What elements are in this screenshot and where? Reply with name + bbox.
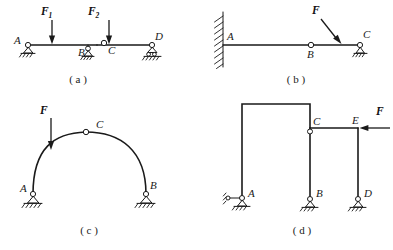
hinge-b-b bbox=[308, 42, 313, 47]
joint-label-a-C: C bbox=[108, 44, 116, 56]
support-pin-c-b bbox=[135, 191, 155, 207]
joint-label-d-E: E bbox=[351, 114, 359, 126]
joint-label-d-C: C bbox=[313, 115, 321, 127]
arch-c-left bbox=[33, 132, 86, 194]
joint-label-a-B: B bbox=[78, 46, 85, 58]
figure-sheet: A B C bbox=[0, 0, 393, 250]
joint-label-b-B: B bbox=[307, 48, 314, 60]
force-label-d-f: F bbox=[375, 105, 384, 117]
support-link-pin-d-a bbox=[223, 193, 250, 210]
force-arrow-a-f1 bbox=[49, 20, 55, 44]
joint-label-c-C: C bbox=[96, 118, 104, 130]
joint-label-c-B: B bbox=[150, 179, 157, 191]
joint-label-d-A: A bbox=[247, 187, 255, 199]
force-sublabel-a-f2: 2 bbox=[95, 11, 100, 20]
hinge-c-c bbox=[83, 129, 88, 134]
joint-label-a-D: D bbox=[154, 30, 163, 42]
force-arrow-a-f2 bbox=[106, 20, 112, 44]
caption-a: ( a ) bbox=[69, 73, 87, 86]
caption-d: ( d ) bbox=[293, 224, 312, 237]
force-sublabel-a-f1: 1 bbox=[49, 11, 53, 20]
arch-c-right bbox=[86, 132, 146, 194]
caption-c: ( c ) bbox=[80, 224, 98, 237]
panel-a: A B C bbox=[13, 5, 163, 86]
joint-label-c-A: A bbox=[19, 182, 27, 194]
hinge-d-c bbox=[308, 129, 313, 134]
support-fixed-wall-b-a bbox=[215, 12, 224, 69]
frame-d-portal bbox=[242, 104, 310, 198]
joint-label-d-B: B bbox=[316, 187, 323, 199]
force-label-b-f: F bbox=[311, 4, 320, 16]
joint-label-d-D: D bbox=[363, 187, 372, 199]
caption-b: ( b ) bbox=[287, 73, 306, 86]
force-arrow-d-f bbox=[360, 125, 391, 131]
panel-b: A B C F ( bbox=[215, 4, 372, 86]
joint-label-a-A: A bbox=[13, 34, 21, 46]
force-arrow-b-f bbox=[321, 19, 342, 44]
joint-label-b-C: C bbox=[363, 28, 371, 40]
hinge-a-c bbox=[101, 40, 106, 45]
panel-d: C E A bbox=[223, 104, 390, 237]
force-label-c-f: F bbox=[39, 104, 48, 116]
panel-c: C A bbox=[19, 104, 157, 237]
joint-label-b-A: A bbox=[226, 30, 234, 42]
